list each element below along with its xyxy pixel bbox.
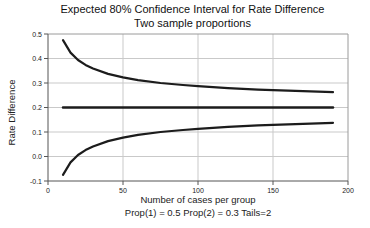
y-tick-label: 0.0 <box>32 153 42 160</box>
x-tick-label: 150 <box>267 187 279 194</box>
x-axis-label: Number of cases per group <box>48 194 348 205</box>
y-tick-label: 0.5 <box>32 31 42 38</box>
x-tick-label: 200 <box>342 187 354 194</box>
confidence-interval-chart: Expected 80% Confidence Interval for Rat… <box>0 0 370 228</box>
y-tick-label: 0.3 <box>32 80 42 87</box>
y-tick-label: 0.2 <box>32 104 42 111</box>
y-tick-label: 0.1 <box>32 129 42 136</box>
x-tick-label: 0 <box>46 187 50 194</box>
x-axis-parameters-label: Prop(1) = 0.5 Prop(2) = 0.3 Tails=2 <box>48 207 348 218</box>
x-tick-label: 50 <box>119 187 127 194</box>
y-tick-label: 0.4 <box>32 55 42 62</box>
x-tick-label: 100 <box>192 187 204 194</box>
y-tick-label: -0.1 <box>30 178 42 185</box>
